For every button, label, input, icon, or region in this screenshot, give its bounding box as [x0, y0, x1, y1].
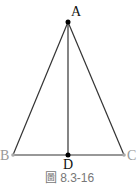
segment-ab [13, 22, 68, 155]
point-c [122, 153, 126, 157]
figure-caption: 圖 8.3-16 [0, 168, 139, 185]
point-b [11, 153, 15, 157]
label-a: A [71, 5, 81, 19]
label-b: B [0, 149, 9, 163]
segment-ac [68, 22, 124, 155]
label-c: C [127, 149, 136, 163]
point-a [66, 20, 71, 25]
